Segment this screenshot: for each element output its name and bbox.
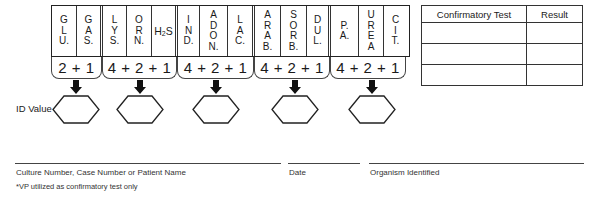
id-value-hexagon-field[interactable]	[348, 95, 396, 124]
culture-number-label: Culture Number, Case Number or Patient N…	[16, 168, 186, 177]
test-label: GLU.	[59, 15, 69, 47]
confirmatory-test-cell[interactable]	[422, 44, 527, 65]
test-label: CIT.	[392, 15, 400, 47]
id-value-label: ID Value	[16, 103, 52, 114]
result-cell[interactable]	[527, 44, 583, 65]
result-cell[interactable]	[527, 23, 583, 44]
down-arrow-icon	[70, 80, 82, 94]
confirmatory-test-table: Confirmatory Test Result	[421, 5, 583, 86]
test-label: GAS.	[84, 15, 93, 47]
sum-cell: 4 + 2 + 1	[254, 57, 330, 79]
test-label: LAC.	[235, 15, 245, 47]
test-label: SORB.	[289, 10, 298, 52]
footnote: *VP utilized as confirmatory test only	[16, 182, 138, 191]
date-line[interactable]	[288, 163, 360, 164]
header-result: Result	[527, 6, 583, 23]
test-column-cit: CIT.	[384, 6, 407, 56]
table-row	[422, 44, 583, 65]
test-label: ARAB.	[263, 10, 272, 52]
test-label: IND.	[184, 15, 194, 47]
test-column-h₂s: H2S	[152, 6, 178, 56]
header-confirmatory-test: Confirmatory Test	[422, 6, 527, 23]
down-arrow-icon	[210, 80, 222, 94]
sum-cell: 4 + 2 + 1	[102, 57, 177, 79]
test-column-gas: GAS.	[77, 6, 103, 56]
test-column-glu: GLU.	[52, 6, 77, 56]
test-label: LYS.	[110, 15, 119, 47]
down-arrow-icon	[134, 80, 146, 94]
test-column-orn: ORN.	[127, 6, 152, 56]
test-column-lys: LYS.	[103, 6, 127, 56]
id-value-hexagon-field[interactable]	[192, 95, 240, 124]
test-column-urea: UREA	[359, 6, 384, 56]
organism-identified-label: Organism Identified	[370, 168, 439, 177]
test-label: H2S	[154, 25, 173, 37]
test-column-sorb: SORB.	[281, 6, 307, 56]
test-column-adon: ADON.	[200, 6, 228, 56]
sum-cell: 4 + 2 + 1	[330, 57, 406, 79]
test-label: P.A.	[340, 21, 349, 42]
test-label: UREA	[367, 10, 374, 52]
table-row	[422, 23, 583, 44]
down-arrow-icon	[366, 80, 378, 94]
result-cell[interactable]	[527, 65, 583, 86]
sum-row: 2 + 14 + 2 + 14 + 2 + 14 + 2 + 14 + 2 + …	[51, 57, 410, 79]
date-label: Date	[289, 168, 306, 177]
id-value-hexagon-field[interactable]	[271, 95, 319, 124]
confirmatory-test-cell[interactable]	[422, 23, 527, 44]
sum-cell: 4 + 2 + 1	[177, 57, 254, 79]
test-column-ind: IND.	[178, 6, 200, 56]
sum-cell: 2 + 1	[51, 57, 102, 79]
test-label: DUL.	[313, 15, 321, 47]
id-value-hexagon-field[interactable]	[52, 95, 100, 124]
test-column-arab: ARAB.	[255, 6, 281, 56]
test-label: ADON.	[209, 10, 219, 52]
biochemical-test-grid: GLU.GAS.LYS.ORN.H2SIND.ADON.LAC.ARAB.SOR…	[51, 5, 410, 57]
confirmatory-test-cell[interactable]	[422, 65, 527, 86]
id-value-hexagon-field[interactable]	[116, 95, 164, 124]
organism-line[interactable]	[369, 163, 584, 164]
down-arrow-icon	[289, 80, 301, 94]
test-label: ORN.	[134, 15, 144, 47]
test-column-dul: DUL.	[307, 6, 331, 56]
culture-number-line[interactable]	[15, 163, 281, 164]
test-column-lac: LAC.	[228, 6, 255, 56]
test-column-pa: P.A.	[331, 6, 359, 56]
table-row	[422, 65, 583, 86]
